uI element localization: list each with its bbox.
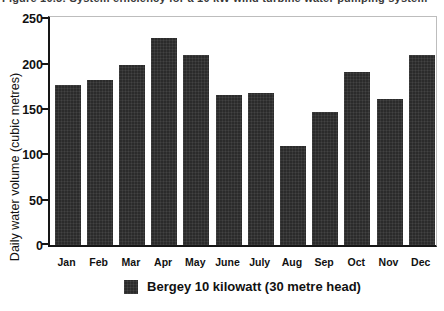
y-axis-tick-labels: 050100150200250 [0,16,43,247]
bar-mar [119,65,145,245]
bar-nov [377,99,403,245]
bar-sep [312,112,338,245]
chart-figure: Figure 10.5: System efficiency for a 10 … [0,0,444,311]
bar-may [183,55,209,245]
bar-oct [344,72,370,245]
legend: Bergey 10 kilowatt (30 metre head) [48,279,437,294]
plot-area [48,16,437,247]
figure-caption-clipped: Figure 10.5: System efficiency for a 10 … [2,0,427,5]
y-tick-label: 100 [22,148,43,162]
bar-jan [55,85,81,245]
legend-swatch-icon [124,280,138,294]
bar-aug [280,146,306,245]
bar-dec [409,55,435,245]
y-tick-label: 50 [29,194,43,208]
x-tick-label-dec: Dec [399,256,443,268]
y-tick-label: 200 [22,58,43,72]
y-tick-label: 150 [22,103,43,117]
legend-label: Bergey 10 kilowatt (30 metre head) [147,279,361,294]
bar-july [248,93,274,245]
bar-feb [87,80,113,245]
y-tick-label: 0 [36,239,43,253]
bar-apr [151,38,177,245]
bar-june [216,95,242,245]
y-tick-label: 250 [22,12,43,26]
